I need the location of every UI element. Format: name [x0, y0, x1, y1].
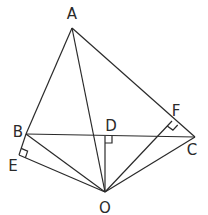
label-D: D — [105, 117, 117, 135]
label-A: A — [67, 5, 78, 23]
label-C: C — [187, 141, 197, 159]
right-angle-markers — [21, 125, 178, 158]
segment-AB — [26, 28, 72, 134]
geometry-diagram: A B C D E F O — [0, 0, 208, 215]
label-O: O — [99, 199, 111, 215]
label-B: B — [13, 123, 23, 141]
segment-CO — [105, 137, 195, 192]
right-angle-F-icon — [167, 125, 178, 130]
label-E: E — [8, 157, 17, 175]
label-F: F — [172, 102, 181, 120]
right-angle-D-icon — [105, 136, 112, 143]
segments — [19, 28, 195, 192]
